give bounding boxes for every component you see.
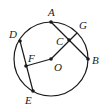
point-o bbox=[49, 57, 53, 61]
label-e: E bbox=[24, 94, 32, 106]
segment-og bbox=[51, 33, 77, 59]
geometry-diagram: ABCDEFGO bbox=[0, 0, 102, 109]
label-f: F bbox=[27, 52, 35, 64]
point-d bbox=[18, 39, 22, 43]
label-d: D bbox=[8, 28, 17, 40]
label-o: O bbox=[54, 61, 62, 73]
point-b bbox=[86, 57, 90, 61]
label-c: C bbox=[56, 35, 64, 47]
point-a bbox=[49, 20, 53, 24]
point-f bbox=[24, 64, 28, 68]
label-a: A bbox=[47, 6, 55, 18]
point-c bbox=[67, 38, 71, 42]
point-e bbox=[31, 89, 35, 93]
label-b: B bbox=[92, 54, 99, 66]
label-g: G bbox=[79, 19, 87, 31]
